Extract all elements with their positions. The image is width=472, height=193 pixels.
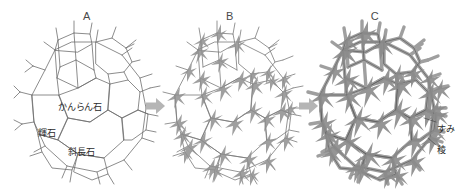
part-label-corner: すみ bbox=[437, 122, 455, 135]
mineral-label-plagioclase: 斜長石 bbox=[68, 145, 94, 158]
figure-canvas: A bbox=[0, 0, 472, 193]
arrow-b-to-c bbox=[299, 97, 319, 115]
right-arrow-icon bbox=[299, 97, 319, 115]
right-arrow-icon bbox=[146, 97, 166, 115]
part-label-edge: 稜 bbox=[437, 143, 446, 156]
panel-a-grain-network bbox=[12, 0, 162, 193]
panel-c-grain-network bbox=[300, 0, 472, 193]
mineral-label-pyroxene: 輝石 bbox=[38, 126, 56, 139]
mineral-label-olivine: かんらん石 bbox=[58, 100, 102, 113]
panel-b: B bbox=[155, 0, 305, 193]
panel-c: C bbox=[300, 0, 450, 193]
panel-b-grain-network bbox=[155, 0, 305, 193]
arrow-a-to-b bbox=[146, 97, 166, 115]
panel-a: A bbox=[12, 0, 162, 193]
